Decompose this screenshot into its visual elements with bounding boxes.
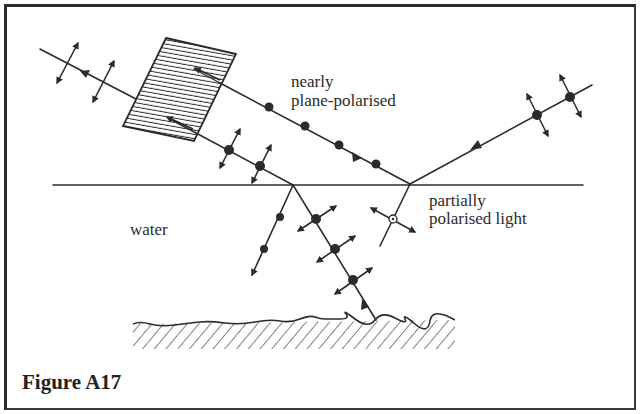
double-arrow-icon bbox=[57, 43, 78, 83]
label-plane-polarised: plane-polarised bbox=[291, 91, 396, 110]
double-arrow-icon bbox=[298, 206, 336, 231]
double-arrow-icon bbox=[93, 61, 114, 102]
dot-icon bbox=[260, 245, 268, 253]
figure-caption: Figure A17 bbox=[22, 370, 121, 395]
double-arrow-icon bbox=[317, 236, 355, 262]
dot-icon bbox=[276, 213, 284, 221]
dot-icon bbox=[301, 122, 310, 131]
incident-ray bbox=[410, 85, 592, 184]
label-nearly: nearly bbox=[291, 72, 333, 91]
polaroid-filter bbox=[123, 38, 236, 141]
dot-icon bbox=[335, 141, 344, 150]
label-partially: partially bbox=[429, 191, 486, 210]
polarisation-diagram bbox=[0, 0, 640, 414]
dot-icon bbox=[372, 160, 381, 169]
double-arrow-icon bbox=[335, 268, 372, 294]
refracted-ray-left bbox=[252, 185, 293, 275]
label-water: water bbox=[130, 220, 168, 239]
double-arrow-icon bbox=[220, 129, 240, 168]
circled-dot-icon bbox=[389, 215, 397, 223]
arrow-icon bbox=[470, 140, 482, 150]
double-arrow-icon bbox=[527, 94, 548, 136]
double-arrow-icon bbox=[560, 75, 581, 117]
dot-icon bbox=[265, 103, 274, 112]
label-polarised-light: polarised light bbox=[429, 209, 527, 228]
